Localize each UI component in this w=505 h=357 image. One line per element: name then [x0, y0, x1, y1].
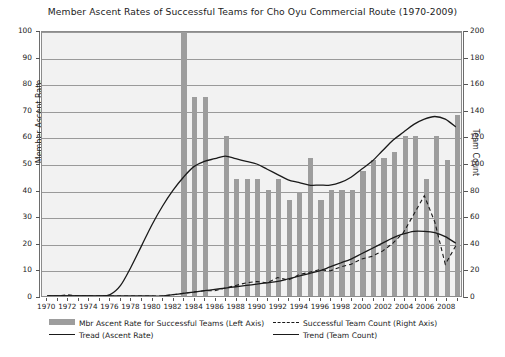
- y-tick-mark-left: [36, 164, 40, 165]
- x-tick-mark: [109, 298, 110, 301]
- x-tick-mark: [404, 298, 405, 301]
- y-tick-label-right: 80: [470, 187, 502, 195]
- legend-label: Trend (Team Count): [303, 331, 377, 340]
- x-tick-mark: [130, 298, 131, 301]
- y-tick-label-right: 200: [470, 27, 502, 35]
- x-tick-mark: [152, 298, 153, 301]
- legend-label: Mbr Ascent Rate for Successful Teams (Le…: [79, 319, 264, 328]
- x-tick-mark: [120, 298, 121, 301]
- y-tick-mark-left: [36, 137, 40, 138]
- x-tick-mark: [299, 298, 300, 301]
- x-tick-mark: [394, 298, 395, 301]
- y-tick-label-right: 20: [470, 266, 502, 274]
- chart-figure: Member Ascent Rates of Successful Teams …: [0, 0, 505, 357]
- x-tick-mark: [67, 298, 68, 301]
- x-tick-mark: [309, 298, 310, 301]
- y-tick-mark-right: [464, 84, 468, 85]
- y-tick-mark-left: [36, 111, 40, 112]
- y-tick-label-left: 100: [2, 27, 32, 35]
- x-tick-mark: [99, 298, 100, 301]
- y-tick-mark-right: [464, 217, 468, 218]
- y-tick-mark-right: [464, 191, 468, 192]
- y-tick-mark-left: [36, 58, 40, 59]
- x-tick-mark: [183, 298, 184, 301]
- legend-item-trend-count[interactable]: Trend (Team Count): [273, 331, 377, 340]
- solid-line-icon: [49, 334, 75, 335]
- x-tick-mark: [88, 298, 89, 301]
- plot-area: [41, 31, 462, 297]
- legend-label: Successful Team Count (Right Axis): [303, 319, 437, 328]
- legend-item-team-count[interactable]: Successful Team Count (Right Axis): [273, 319, 437, 328]
- y-tick-mark-right: [464, 31, 468, 32]
- y-tick-label-left: 30: [2, 213, 32, 221]
- x-tick-mark: [78, 298, 79, 301]
- y-tick-label-right: 180: [470, 54, 502, 62]
- line-series: [42, 32, 461, 296]
- y-tick-label-right: 160: [470, 80, 502, 88]
- y-tick-mark-left: [36, 217, 40, 218]
- y-tick-mark-right: [464, 137, 468, 138]
- y-tick-label-right: 120: [470, 133, 502, 141]
- x-tick-mark: [457, 298, 458, 301]
- y-tick-label-right: 60: [470, 213, 502, 221]
- x-tick-mark: [446, 298, 447, 301]
- y-tick-mark-right: [464, 244, 468, 245]
- x-tick-mark: [194, 298, 195, 301]
- y-tick-mark-right: [464, 111, 468, 112]
- y-tick-mark-left: [36, 270, 40, 271]
- x-tick-mark: [257, 298, 258, 301]
- x-tick-mark: [162, 298, 163, 301]
- x-tick-label: 2008: [431, 302, 461, 311]
- y-tick-mark-left: [36, 244, 40, 245]
- x-tick-mark: [415, 298, 416, 301]
- y-tick-label-right: 40: [470, 240, 502, 248]
- y-tick-mark-right: [464, 270, 468, 271]
- bar-swatch-icon: [49, 319, 75, 325]
- x-tick-mark: [373, 298, 374, 301]
- y-tick-label-left: 70: [2, 107, 32, 115]
- y-tick-mark-left: [36, 191, 40, 192]
- x-tick-mark: [436, 298, 437, 301]
- chart-legend: Mbr Ascent Rate for Successful Teams (Le…: [0, 319, 505, 345]
- y-tick-mark-left: [36, 84, 40, 85]
- x-tick-mark: [173, 298, 174, 301]
- y-tick-mark-right: [464, 58, 468, 59]
- figure-caption: [0, 349, 505, 357]
- y-tick-label-right: 0: [470, 293, 502, 301]
- x-tick-mark: [362, 298, 363, 301]
- legend-label: Tread (Ascent Rate): [79, 331, 154, 340]
- x-tick-mark: [341, 298, 342, 301]
- series-line: [47, 231, 456, 296]
- chart-title: Member Ascent Rates of Successful Teams …: [0, 6, 505, 17]
- y-tick-label-left: 0: [2, 293, 32, 301]
- x-tick-mark: [330, 298, 331, 301]
- x-tick-mark: [320, 298, 321, 301]
- y-tick-label-left: 20: [2, 240, 32, 248]
- y-tick-label-left: 40: [2, 187, 32, 195]
- x-tick-mark: [225, 298, 226, 301]
- x-tick-mark: [278, 298, 279, 301]
- y-tick-label-right: 140: [470, 107, 502, 115]
- y-tick-mark-left: [36, 31, 40, 32]
- x-tick-mark: [246, 298, 247, 301]
- y-tick-mark-right: [464, 297, 468, 298]
- x-tick-mark: [204, 298, 205, 301]
- series-line: [47, 196, 456, 296]
- x-tick-mark: [57, 298, 58, 301]
- y-tick-label-left: 50: [2, 160, 32, 168]
- y-tick-label-left: 60: [2, 133, 32, 141]
- x-tick-mark: [288, 298, 289, 301]
- y-tick-label-right: 100: [470, 160, 502, 168]
- x-tick-mark: [236, 298, 237, 301]
- legend-item-bar[interactable]: Mbr Ascent Rate for Successful Teams (Le…: [49, 319, 264, 328]
- dashed-line-icon: [273, 322, 299, 323]
- y-tick-label-left: 80: [2, 80, 32, 88]
- series-line: [47, 116, 456, 296]
- x-tick-mark: [383, 298, 384, 301]
- x-tick-mark: [425, 298, 426, 301]
- x-tick-mark: [46, 298, 47, 301]
- y-tick-mark-left: [36, 297, 40, 298]
- x-tick-mark: [141, 298, 142, 301]
- legend-item-trend-rate[interactable]: Tread (Ascent Rate): [49, 331, 154, 340]
- x-tick-mark: [267, 298, 268, 301]
